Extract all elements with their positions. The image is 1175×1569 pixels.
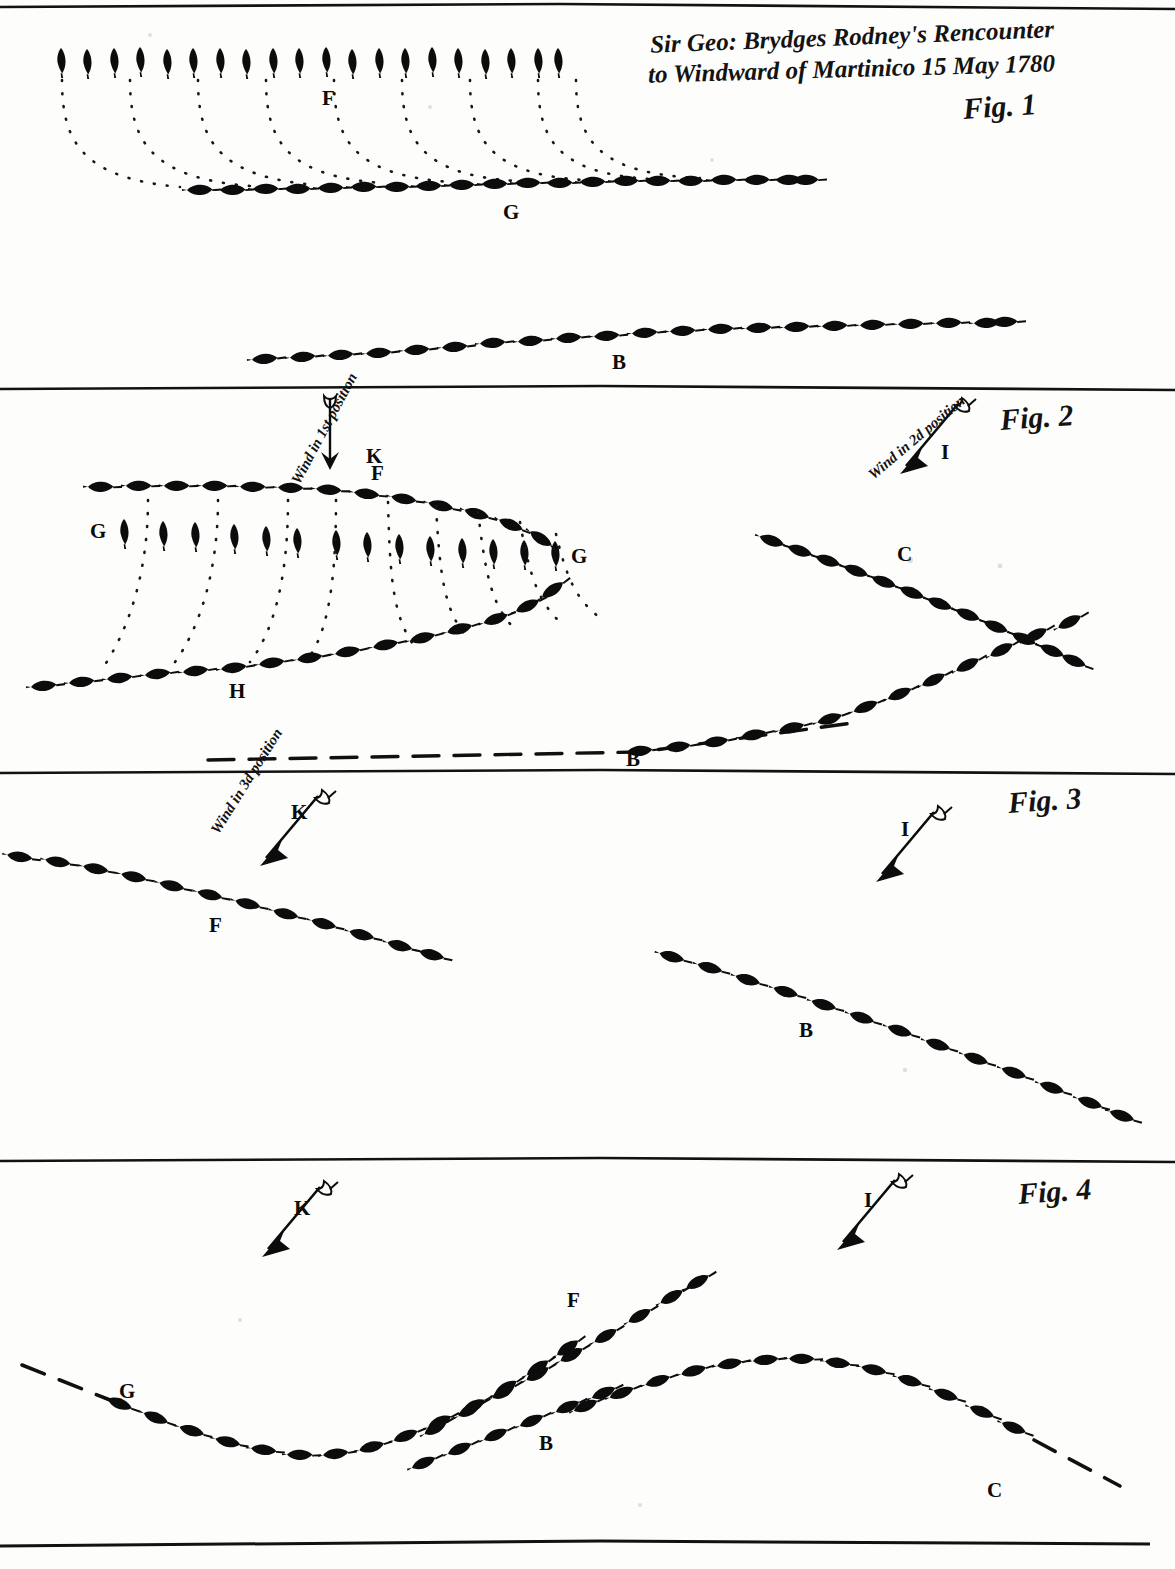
fig3-wind-letter-I: I — [901, 817, 909, 842]
fig1-manoeuvre-traces — [62, 80, 700, 187]
plate-dividers — [0, 4, 1175, 1546]
fig2-line-H-ships — [26, 574, 574, 692]
figure-2-caption: Fig. 2 — [999, 398, 1075, 437]
fig2-line-C-ships — [753, 530, 1095, 674]
fig4-wind-arrow-I — [837, 1174, 913, 1250]
fig4-wind-letter-I: I — [864, 1188, 872, 1213]
fig2-wind-letter-K: K — [366, 444, 382, 469]
fig4-fleet-label-F: F — [567, 1290, 580, 1311]
figure-4-caption: Fig. 4 — [1017, 1172, 1093, 1211]
fig3-wind-letter-K: K — [291, 800, 307, 825]
fig4-fleet-label-C: C — [987, 1480, 1003, 1501]
fig1-line-F-ships — [57, 47, 562, 79]
figure-4-group — [22, 1174, 1120, 1486]
fig1-fleet-label-B: B — [612, 352, 627, 373]
fig1-fleet-label-F: F — [322, 88, 335, 109]
fig4-line-C-ships — [567, 1353, 1120, 1486]
fig1-line-G-ships — [182, 175, 827, 195]
fig1-line-B-ships — [247, 316, 1026, 365]
fig4-fleet-label-G: G — [119, 1381, 136, 1402]
fig2-fleet-label-G-left: G — [90, 521, 107, 542]
fig4-wind-letter-K: K — [294, 1196, 310, 1221]
fig2-line-G-ships — [120, 519, 559, 571]
fig2-manoeuvre-traces — [100, 500, 600, 672]
fig2-fleet-label-G-right: G — [571, 546, 588, 567]
figure-3-group — [1, 790, 1143, 1128]
figure-2-group — [26, 396, 1096, 760]
figure-1-caption: Fig. 1 — [962, 87, 1038, 126]
battle-plate-drawing — [0, 0, 1175, 1569]
figure-1-group — [57, 47, 1026, 365]
fig3-line-B-ships — [653, 947, 1143, 1128]
fig2-line-F-ships — [83, 480, 561, 555]
fig2-fleet-label-C: C — [897, 544, 913, 565]
fig3-wind-arrow-I — [876, 806, 952, 882]
figure-3-caption: Fig. 3 — [1007, 781, 1083, 820]
fig1-fleet-label-G: G — [503, 202, 520, 223]
fig2-line-B-ships — [208, 608, 1091, 760]
fig2-fleet-label-H: H — [229, 681, 246, 702]
fig3-fleet-label-F: F — [209, 915, 222, 936]
fig2-fleet-label-B: B — [626, 749, 641, 770]
fig4-fleet-label-B: B — [539, 1433, 554, 1454]
fig2-wind-letter-I: I — [941, 440, 949, 465]
plate-page: Sir Geo: Brydges Rodney's Rencounter to … — [0, 0, 1175, 1569]
fig3-line-F-ships — [1, 849, 453, 966]
fig3-fleet-label-B: B — [799, 1020, 814, 1041]
